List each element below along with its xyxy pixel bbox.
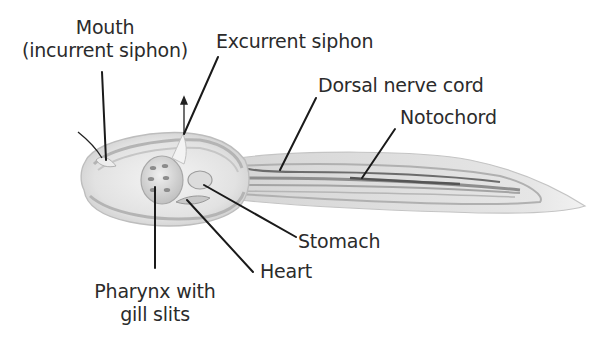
label-mouth: Mouth (incurrent siphon)	[10, 16, 200, 62]
label-pharynx-line1: Pharynx with	[70, 280, 240, 303]
arrow-head-icon	[181, 97, 187, 104]
tunicate-larva-diagram: Mouth (incurrent siphon) Excurrent sipho…	[0, 0, 598, 340]
stomach	[188, 171, 212, 189]
label-notochord: Notochord	[400, 106, 497, 129]
label-mouth-line2: (incurrent siphon)	[10, 39, 200, 62]
label-heart: Heart	[260, 260, 312, 283]
label-pharynx-line2: gill slits	[70, 303, 240, 326]
label-dorsal-nerve-cord: Dorsal nerve cord	[318, 74, 484, 97]
label-pharynx: Pharynx with gill slits	[70, 280, 240, 326]
label-mouth-line1: Mouth	[10, 16, 200, 39]
label-stomach: Stomach	[298, 230, 380, 253]
tail	[220, 152, 585, 213]
pharynx	[141, 156, 183, 204]
label-excurrent-siphon: Excurrent siphon	[216, 30, 373, 53]
leader-line-excurrent-siphon	[184, 57, 218, 134]
